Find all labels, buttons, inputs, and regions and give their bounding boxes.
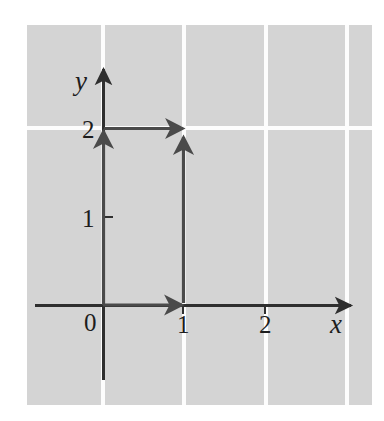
x-tick-label-2: 2 [259,312,272,337]
origin-label: 0 [84,310,97,335]
vector-diagram-figure: y x 0 1 2 1 2 [0,0,384,421]
y-axis-label: y [75,68,87,95]
x-tick-label-1: 1 [177,312,190,337]
x-axis-label: x [330,311,342,338]
y-tick-label-2: 2 [82,117,95,142]
vector-overlay [0,0,384,421]
y-tick-label-1: 1 [82,206,95,231]
